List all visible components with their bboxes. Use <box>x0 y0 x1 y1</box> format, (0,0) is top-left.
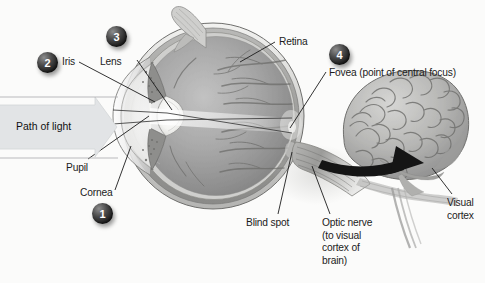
badge-4-number: 4 <box>336 49 342 61</box>
label-visual-cortex-sub: cortex <box>447 209 474 222</box>
label-blind-spot: Blind spot <box>246 216 289 229</box>
label-fovea: Fovea (point of central focus) <box>329 66 456 79</box>
label-optic-nerve-sub2: cortex of <box>322 241 372 254</box>
eye-anatomy-diagram: 1 2 3 4 Iris Lens Retina Fovea (point of… <box>0 0 485 283</box>
label-path-of-light: Path of light <box>16 120 71 132</box>
label-optic-nerve: Optic nerve <box>322 216 372 229</box>
badge-2-iris[interactable]: 2 <box>37 52 58 73</box>
badge-3-number: 3 <box>113 31 119 43</box>
diagram-artwork <box>0 0 485 283</box>
badge-2-number: 2 <box>44 57 50 69</box>
label-iris: Iris <box>62 55 75 68</box>
badge-4-fovea[interactable]: 4 <box>329 44 350 65</box>
badge-3-lens[interactable]: 3 <box>106 26 127 47</box>
label-cornea: Cornea <box>80 186 112 199</box>
label-optic-nerve-sub3: brain) <box>322 254 372 267</box>
badge-1-cornea[interactable]: 1 <box>92 203 113 224</box>
label-lens: Lens <box>100 55 121 68</box>
label-visual-cortex: Visual <box>447 196 474 209</box>
label-retina: Retina <box>279 35 307 48</box>
label-pupil: Pupil <box>66 161 88 174</box>
label-optic-nerve-sub1: (to visual <box>322 229 372 242</box>
badge-1-number: 1 <box>99 208 105 220</box>
